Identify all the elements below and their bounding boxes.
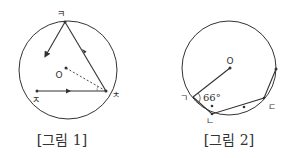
label-k: ㅋ	[57, 9, 65, 19]
figure-2: 66° O ㄱ ㄴ ㄷ [그림 2]	[180, 21, 278, 148]
label-o-2: O	[226, 56, 233, 66]
figures-canvas: ㅋ ㅊ ㅈ O [그림 1] 66° O ㄱ ㄴ ㄷ [그림 2]	[0, 0, 297, 158]
label-g: ㄱ	[180, 93, 188, 103]
caption-2: [그림 2]	[204, 132, 254, 148]
caption-1: [그림 1]	[37, 132, 87, 148]
label-j: ㅈ	[32, 95, 40, 105]
label-o-1: O	[55, 70, 62, 80]
label-ch: ㅊ	[112, 90, 120, 100]
figure-1: ㅋ ㅊ ㅈ O [그림 1]	[19, 9, 120, 148]
dashed-radius	[66, 68, 106, 91]
angle-label: 66°	[203, 92, 221, 103]
label-n: ㄴ	[206, 116, 214, 126]
arrow-right-icon	[66, 89, 71, 94]
label-d: ㄷ	[268, 102, 276, 112]
arrow-k-down	[46, 22, 65, 55]
